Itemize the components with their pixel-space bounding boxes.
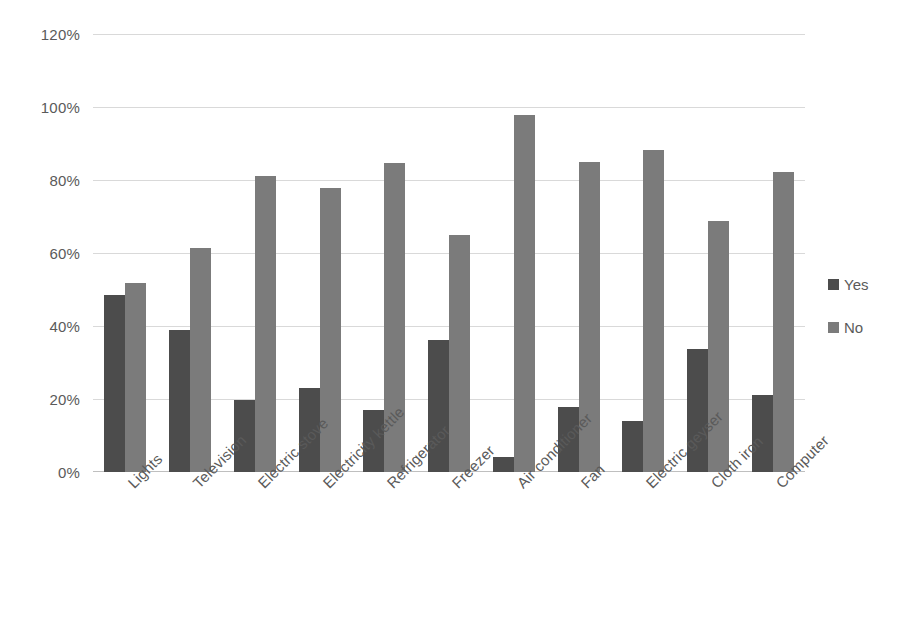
bar-group xyxy=(676,34,741,472)
bar-no[interactable] xyxy=(190,248,211,472)
y-tick-label: 60% xyxy=(49,246,80,261)
bar-group xyxy=(352,34,417,472)
bar-no[interactable] xyxy=(643,150,664,472)
y-tick-label: 100% xyxy=(41,100,80,115)
bar-group xyxy=(611,34,676,472)
bar-yes[interactable] xyxy=(493,457,514,472)
bar-yes[interactable] xyxy=(104,295,125,472)
bar-no[interactable] xyxy=(514,115,535,472)
y-tick-label: 40% xyxy=(49,319,80,334)
chart-legend: YesNo xyxy=(828,276,913,362)
legend-label: No xyxy=(844,319,863,336)
bar-no[interactable] xyxy=(773,172,794,472)
plot-area xyxy=(93,34,805,472)
legend-swatch-icon xyxy=(828,279,839,290)
x-axis-labels: LightsTelevisionElectric stoveElectricit… xyxy=(93,472,805,622)
legend-label: Yes xyxy=(844,276,868,293)
y-axis: 0%20%40%60%80%100%120% xyxy=(0,0,88,625)
bar-yes[interactable] xyxy=(622,421,643,472)
bar-no[interactable] xyxy=(255,176,276,472)
bar-group xyxy=(287,34,352,472)
y-tick-label: 20% xyxy=(49,392,80,407)
y-tick-label: 120% xyxy=(41,27,80,42)
bar-group xyxy=(158,34,223,472)
legend-item[interactable]: Yes xyxy=(828,276,913,293)
bar-group xyxy=(546,34,611,472)
legend-item[interactable]: No xyxy=(828,319,913,336)
bar-group xyxy=(93,34,158,472)
bar-chart: 0%20%40%60%80%100%120% LightsTelevisionE… xyxy=(0,0,915,625)
bar-group xyxy=(481,34,546,472)
y-tick-label: 0% xyxy=(58,465,80,480)
bar-groups xyxy=(93,34,805,472)
bar-yes[interactable] xyxy=(169,330,190,472)
bar-group xyxy=(740,34,805,472)
y-tick-label: 80% xyxy=(49,173,80,188)
bar-no[interactable] xyxy=(125,283,146,472)
legend-swatch-icon xyxy=(828,322,839,333)
bar-no[interactable] xyxy=(449,235,470,472)
bar-group xyxy=(222,34,287,472)
bar-group xyxy=(417,34,482,472)
